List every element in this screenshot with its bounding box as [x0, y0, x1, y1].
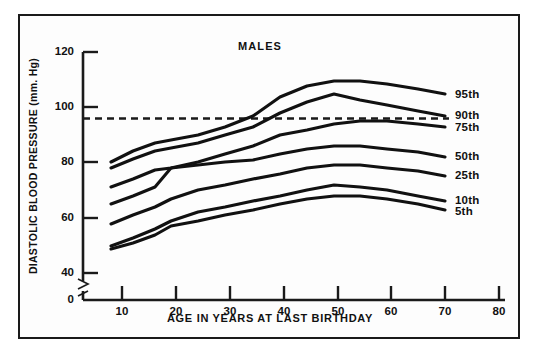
figure-container: MALES DIASTOLIC BLOOD PRESSURE (mm. Hg) … — [0, 0, 536, 357]
y-tick-label-100: 100 — [40, 100, 74, 112]
series-label-50th: 50th — [455, 150, 479, 162]
series-label-25th: 25th — [455, 169, 479, 181]
x-tick-label-10: 10 — [107, 305, 137, 317]
series-label-95th: 95th — [455, 88, 479, 100]
series-label-90th: 90th — [455, 109, 479, 121]
y-tick-label-40: 40 — [40, 266, 74, 278]
curve-10th — [111, 185, 445, 246]
y-tick-label-80: 80 — [40, 155, 74, 167]
x-tick-label-40: 40 — [269, 305, 299, 317]
x-tick-label-60: 60 — [376, 305, 406, 317]
y-axis-label: DIASTOLIC BLOOD PRESSURE (mm. Hg) — [27, 51, 39, 281]
x-tick-label-30: 30 — [215, 305, 245, 317]
curve-25th — [111, 165, 445, 224]
x-tick-label-50: 50 — [323, 305, 353, 317]
y-tick-label-120: 120 — [40, 45, 74, 57]
series-label-5th: 5th — [455, 205, 473, 217]
x-tick-label-80: 80 — [484, 305, 514, 317]
y-tick-label-60: 60 — [40, 211, 74, 223]
x-tick-label-20: 20 — [161, 305, 191, 317]
series-label-75th: 75th — [455, 121, 479, 133]
x-tick-label-70: 70 — [430, 305, 460, 317]
chart-title: MALES — [238, 40, 282, 52]
y-tick-label-0: 0 — [40, 293, 74, 305]
curve-90th — [111, 94, 445, 168]
